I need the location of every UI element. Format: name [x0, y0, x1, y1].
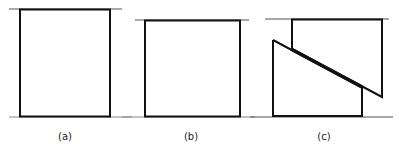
rectangle-shape [20, 10, 110, 117]
square-shape [145, 21, 240, 117]
diagonal-cut-line [292, 50, 362, 88]
panel-label-b: (b) [184, 131, 198, 142]
panel-label-c: (c) [317, 131, 330, 142]
panel-c: (c) [250, 19, 393, 142]
figure-canvas: (a) (b) (c) [0, 0, 399, 151]
panel-a: (a) [9, 9, 132, 142]
panel-label-a: (a) [58, 131, 72, 142]
panel-b: (b) [122, 20, 255, 142]
